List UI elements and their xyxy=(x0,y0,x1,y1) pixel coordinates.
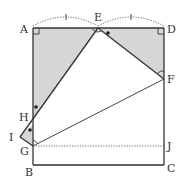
label-J: J xyxy=(166,140,171,153)
label-H: H xyxy=(19,111,29,124)
label-A: A xyxy=(19,23,29,36)
angle-arc-G xyxy=(33,140,38,144)
angle-dot-H xyxy=(34,105,38,109)
label-C: C xyxy=(167,162,175,175)
label-I: I xyxy=(9,131,13,144)
label-B: B xyxy=(25,166,33,179)
label-G: G xyxy=(20,145,29,158)
label-F: F xyxy=(167,73,175,86)
label-E: E xyxy=(94,11,102,24)
angle-dot-G xyxy=(28,128,32,132)
geometry-diagram: A E D F H I G J B C xyxy=(0,0,183,184)
angle-dot-E xyxy=(106,31,110,35)
label-D: D xyxy=(167,23,176,36)
